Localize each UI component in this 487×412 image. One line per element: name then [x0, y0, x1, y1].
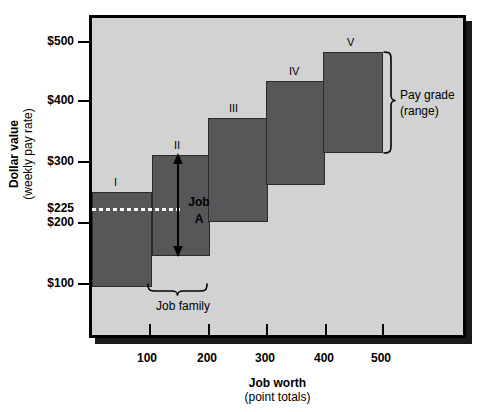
y-axis-title-main: Dollar value: [7, 89, 21, 219]
x-tick-label-500: 500: [361, 352, 401, 364]
bar-grade-III[interactable]: [208, 118, 268, 222]
x-tick-400: [325, 324, 327, 335]
y-tick-500: [78, 41, 89, 43]
x-tick-label-400: 400: [304, 352, 344, 364]
annotation-job-a-line2: A: [182, 212, 216, 226]
x-tick-300: [266, 324, 268, 335]
x-axis-title: Job worth (point totals): [89, 376, 466, 404]
y-tick-label-300: $300: [32, 155, 74, 167]
plot-inner: [92, 18, 463, 335]
x-tick-label-200: 200: [187, 352, 227, 364]
x-tick-500: [382, 324, 384, 335]
bar-grade-IV[interactable]: [266, 81, 325, 185]
x-tick-100: [149, 324, 151, 335]
y-tick-label-200: $200: [32, 216, 74, 228]
x-tick-label-100: 100: [127, 352, 167, 364]
x-axis-title-sub: (point totals): [89, 390, 466, 404]
annotation-job-family: Job family: [138, 299, 228, 313]
bar-label-V: V: [347, 36, 354, 48]
bar-grade-I[interactable]: [92, 192, 152, 287]
annotation-pay-grade-line1: Pay grade: [400, 88, 455, 102]
y-tick-label-225: $225: [32, 202, 74, 214]
y-tick-label-400: $400: [32, 94, 74, 106]
x-tick-label-300: 300: [245, 352, 285, 364]
bar-label-IV: IV: [289, 65, 299, 77]
bar-grade-V[interactable]: [323, 52, 383, 153]
plot-area: [89, 15, 466, 338]
y-tick-label-100: $100: [32, 277, 74, 289]
bar-label-II: II: [174, 139, 180, 151]
y-tick-100: [78, 283, 89, 285]
bar-label-III: III: [229, 102, 238, 114]
y-axis-title-sub: (weekly pay rate): [21, 89, 35, 219]
chart-figure: I II III IV V $500 $400 $300 $225 $200 $…: [0, 0, 487, 412]
x-tick-200: [208, 324, 210, 335]
x-axis-title-main: Job worth: [89, 376, 466, 390]
y-tick-400: [78, 100, 89, 102]
y-tick-label-500: $500: [32, 35, 74, 47]
y-tick-200: [78, 222, 89, 224]
y-tick-300: [78, 161, 89, 163]
annotation-pay-grade-line2: (range): [400, 104, 439, 118]
bar-label-I: I: [114, 176, 117, 188]
reference-line-225: [92, 208, 181, 211]
y-axis-title: Dollar value (weekly pay rate): [7, 89, 35, 219]
annotation-job-a-line1: Job: [182, 195, 216, 209]
